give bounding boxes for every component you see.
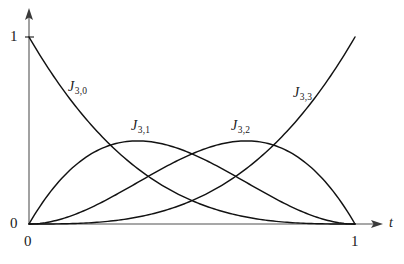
x-axis-name: t xyxy=(389,216,393,230)
caption-strip xyxy=(0,257,404,264)
x-axis-label-one: 1 xyxy=(351,234,359,249)
curve-label-j32-sub: 3,2 xyxy=(238,125,250,135)
curve-j33 xyxy=(29,37,355,224)
curve-label-j30-base: J xyxy=(68,79,74,94)
curve-label-j31-base: J xyxy=(131,118,137,133)
y-axis-label-one: 1 xyxy=(10,29,18,44)
curve-label-j30-sub: 3,0 xyxy=(75,86,87,96)
curve-label-j32: J3,2 xyxy=(231,119,250,133)
curve-label-j33-base: J xyxy=(293,85,299,100)
plot-canvas xyxy=(0,0,404,264)
curve-label-j33: J3,3 xyxy=(293,86,312,100)
curve-label-j31-sub: 3,1 xyxy=(138,125,150,135)
y-axis-label-zero: 0 xyxy=(10,216,18,231)
curve-label-j30: J3,0 xyxy=(68,80,87,94)
x-axis-label-zero: 0 xyxy=(24,234,32,249)
curve-j30 xyxy=(29,37,355,224)
bernstein-basis-figure: 1 0 0 1 t J3,0 J3,1 J3,2 J3,3 xyxy=(0,0,404,264)
curve-label-j32-base: J xyxy=(231,118,237,133)
curve-label-j31: J3,1 xyxy=(131,119,150,133)
curve-j32 xyxy=(29,141,355,224)
curve-label-j33-sub: 3,3 xyxy=(300,92,312,102)
